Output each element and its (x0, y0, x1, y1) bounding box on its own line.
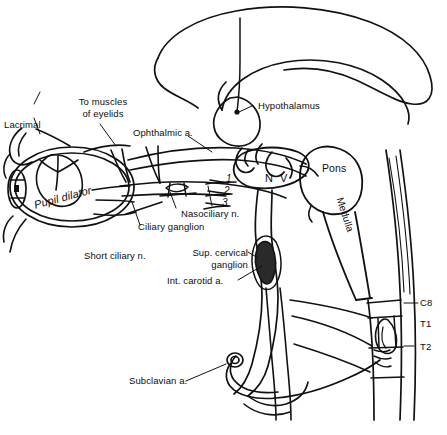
pons-outline (300, 147, 362, 215)
label-to-muscles-of-eyelids-line2: of eyelids (63, 108, 143, 120)
label-ciliary-ganglion: Ciliary ganglion (138, 221, 204, 233)
pupil-aperture (14, 185, 19, 192)
superior-cervical-ganglion (256, 242, 276, 285)
label-trigeminal-branch-1: 1 (226, 173, 232, 185)
label-subclavian-artery: Subclavian a. (129, 375, 187, 387)
label-sup-cervical-ganglion-line2: ganglion (163, 259, 248, 271)
label-hypothalamus: Hypothalamus (258, 100, 320, 112)
nasociliary-nerve-path (120, 182, 286, 198)
lacrimal-branch (36, 129, 70, 146)
label-spinal-level-t2: T2 (420, 341, 431, 353)
label-trigeminal-branch-2: 2 (224, 185, 230, 197)
cerebrum-outline (155, 7, 432, 108)
label-sup-cervical-ganglion-line1: Sup. cervical (163, 247, 248, 259)
label-trigeminal-nerve: N V (265, 173, 289, 185)
pons-medulla-notch (309, 206, 312, 222)
eyelid-muscle-branches (111, 146, 160, 183)
label-nasociliary-nerve: Nasociliary n. (181, 208, 239, 220)
hypothalamus-outline (214, 97, 260, 146)
label-pons: Pons (322, 163, 346, 175)
ciliary-ganglion (160, 183, 196, 197)
label-spinal-level-c8: C8 (420, 297, 432, 309)
label-ophthalmic-artery: Ophthalmic a. (133, 127, 193, 139)
label-spinal-level-t1: T1 (420, 318, 431, 330)
anatomical-figure: Lacrimal To muscles of eyelids Ophthalmi… (0, 0, 447, 435)
spinal-cord-outline (368, 150, 416, 420)
short-ciliary-nerves (92, 186, 162, 214)
label-int-carotid-artery: Int. carotid a. (167, 275, 223, 287)
label-lacrimal: Lacrimal (4, 119, 41, 131)
rami-communicantes (290, 300, 372, 372)
label-short-ciliary-nerve: Short ciliary n. (84, 250, 146, 262)
label-trigeminal-branch-3: 3 (222, 197, 228, 209)
label-to-muscles-of-eyelids-line1: To muscles (63, 96, 143, 108)
